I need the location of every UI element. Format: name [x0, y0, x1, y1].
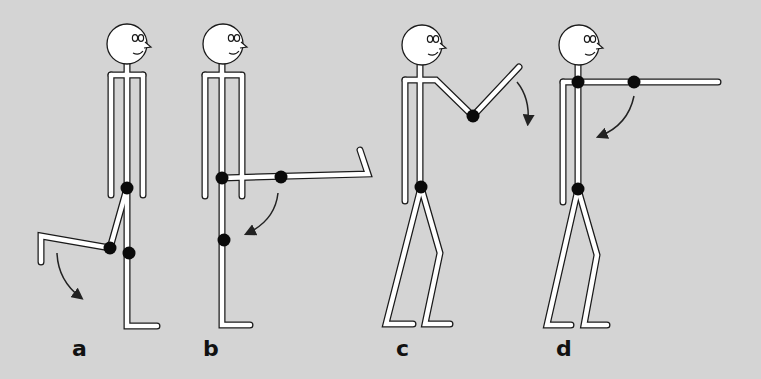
- joint-dot: [121, 182, 134, 195]
- head: [402, 25, 442, 65]
- figure-label-a: a: [72, 336, 87, 361]
- joint-dot: [104, 242, 117, 255]
- motion-arrow-icon: [248, 193, 278, 233]
- joint-dot: [628, 76, 641, 89]
- joint-dot: [275, 171, 288, 184]
- joint-dot: [123, 247, 136, 260]
- eye-icon: [228, 35, 233, 42]
- joint-dot: [572, 76, 585, 89]
- figure-a: [41, 24, 157, 326]
- figure-label-c: c: [396, 336, 409, 361]
- joint-dot: [572, 183, 585, 196]
- limb: [421, 187, 450, 324]
- motion-arrow-icon: [600, 96, 634, 136]
- head: [107, 24, 147, 64]
- biomechanics-diagram: [0, 0, 761, 379]
- figure-c: [386, 25, 528, 324]
- eye-icon: [590, 36, 595, 43]
- motion-arrow-icon: [57, 253, 80, 297]
- figure-label-d: d: [556, 336, 572, 361]
- eye-icon: [234, 35, 239, 42]
- limb: [386, 187, 421, 324]
- joint-dot: [216, 172, 229, 185]
- figure-b: [203, 24, 368, 325]
- motion-arrow-icon: [517, 82, 528, 122]
- eye-icon: [132, 35, 137, 42]
- eye-icon: [433, 36, 438, 43]
- limb: [222, 64, 250, 325]
- joint-dot: [218, 234, 231, 247]
- head: [203, 24, 243, 64]
- limb-outline: [222, 64, 250, 325]
- figure-d: [547, 25, 718, 325]
- eye-icon: [138, 35, 143, 42]
- figure-label-b: b: [203, 336, 219, 361]
- limb: [547, 189, 578, 325]
- head: [559, 25, 599, 65]
- eye-icon: [584, 36, 589, 43]
- eye-icon: [427, 36, 432, 43]
- joint-dot: [467, 110, 480, 123]
- limb: [578, 189, 607, 325]
- joint-dot: [415, 181, 428, 194]
